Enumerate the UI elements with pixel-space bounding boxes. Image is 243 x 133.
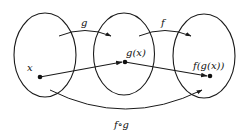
label-map-f: f [160,17,167,28]
label-gx: g(x) [126,47,146,58]
map-f-arrow [139,31,191,37]
set-f-codomain [173,14,235,98]
point-x [38,75,43,80]
point-gx [123,60,128,65]
set-x-domain [14,13,76,97]
label-fgx: f(g(x)) [192,60,224,71]
label-map-g: g [81,17,87,28]
point-fgx [208,74,213,79]
label-x: x [27,62,33,73]
x-to-gx-arrow [40,62,122,77]
label-map-fog: f∘g [113,119,129,130]
map-fog-arrow [50,90,202,109]
map-g-arrow [59,31,111,37]
composition-diagram: x g(x) f(g(x)) g f f∘g [0,0,243,133]
